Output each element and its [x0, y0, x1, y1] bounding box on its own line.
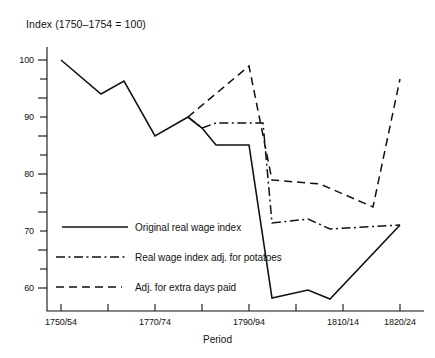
x-axis-ticks: [61, 304, 400, 311]
chart-figure: Index (1750–1754 = 100) 100 90 80 70 60 …: [0, 0, 435, 358]
series-real-wage-index-adj-potatoes: [188, 117, 400, 229]
legend-swatches: [56, 227, 128, 287]
axes: [38, 47, 424, 311]
plot-area: [0, 0, 435, 358]
series-adj-extra-days-paid: [188, 66, 400, 207]
series-original-real-wage-index: [61, 60, 400, 299]
y-axis-ticks: [38, 60, 47, 288]
